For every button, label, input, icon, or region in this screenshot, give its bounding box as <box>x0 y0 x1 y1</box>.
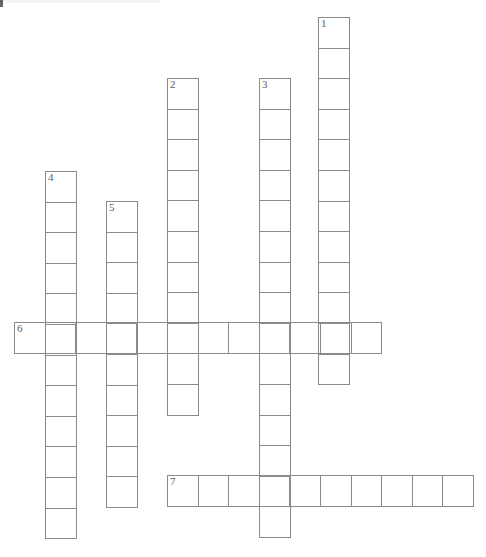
cell[interactable] <box>318 109 350 141</box>
cell-letter[interactable] <box>229 323 259 353</box>
cell-letter[interactable] <box>290 323 320 353</box>
cell-letter[interactable] <box>352 476 382 506</box>
entry-6-across[interactable]: 6 <box>14 322 381 353</box>
entry-5-down[interactable]: 5 <box>106 201 137 507</box>
cell[interactable] <box>289 322 321 354</box>
cell[interactable] <box>45 293 77 325</box>
cell[interactable] <box>167 262 199 294</box>
cell[interactable]: 5 <box>106 201 138 233</box>
cell-letter[interactable] <box>107 263 137 293</box>
entry-3-down[interactable]: 3 <box>259 78 290 537</box>
cell-letter[interactable] <box>319 202 349 232</box>
cell[interactable] <box>45 416 77 448</box>
cell[interactable] <box>167 170 199 202</box>
cell[interactable] <box>381 475 413 507</box>
cell[interactable] <box>259 262 291 294</box>
cell[interactable] <box>259 200 291 232</box>
cell-letter[interactable] <box>168 110 198 140</box>
cell[interactable] <box>318 201 350 233</box>
cell[interactable] <box>318 262 350 294</box>
cell[interactable] <box>259 506 291 538</box>
cell[interactable] <box>45 446 77 478</box>
cell[interactable] <box>259 231 291 263</box>
cell-letter[interactable] <box>107 355 137 385</box>
cell-letter[interactable] <box>107 416 137 446</box>
cell-letter[interactable] <box>168 232 198 262</box>
cell-letter[interactable] <box>260 354 290 384</box>
cell-letter[interactable] <box>260 507 290 537</box>
cell-letter[interactable] <box>46 417 76 447</box>
cell[interactable] <box>318 48 350 80</box>
cell[interactable] <box>318 231 350 263</box>
cell-letter[interactable] <box>260 385 290 415</box>
cell[interactable]: 4 <box>45 171 77 203</box>
entry-7-across[interactable]: 7 <box>167 475 473 506</box>
cell-letter[interactable] <box>260 110 290 140</box>
cell[interactable] <box>106 293 138 325</box>
cell-letter[interactable] <box>229 476 259 506</box>
cell-letter[interactable] <box>319 79 349 109</box>
cell-letter[interactable] <box>168 201 198 231</box>
cell-letter[interactable] <box>319 171 349 201</box>
cell[interactable] <box>106 262 138 294</box>
cell-letter[interactable] <box>260 323 290 353</box>
cell-letter[interactable] <box>319 355 349 385</box>
cell[interactable] <box>106 446 138 478</box>
cell[interactable] <box>412 475 444 507</box>
cell[interactable]: 3 <box>259 78 291 110</box>
cell[interactable] <box>136 322 168 354</box>
cell-letter[interactable] <box>46 264 76 294</box>
cell[interactable] <box>106 232 138 264</box>
cell-letter[interactable] <box>443 476 473 506</box>
cell[interactable] <box>45 508 77 540</box>
cell[interactable] <box>318 170 350 202</box>
cell-letter[interactable] <box>46 294 76 324</box>
cell-letter[interactable] <box>319 263 349 293</box>
cell[interactable] <box>318 78 350 110</box>
cell-letter[interactable] <box>260 476 290 506</box>
cell[interactable] <box>198 475 230 507</box>
cell-letter[interactable] <box>168 171 198 201</box>
cell[interactable] <box>167 200 199 232</box>
cell[interactable] <box>318 354 350 386</box>
cell[interactable] <box>289 475 321 507</box>
cell-letter[interactable] <box>199 476 229 506</box>
cell[interactable] <box>45 385 77 417</box>
cell[interactable] <box>259 415 291 447</box>
cell-letter[interactable] <box>46 233 76 263</box>
cell[interactable] <box>167 139 199 171</box>
cell-letter[interactable] <box>107 447 137 477</box>
cell-letter[interactable] <box>46 323 76 353</box>
cell[interactable] <box>45 355 77 387</box>
cell-letter[interactable] <box>76 323 106 353</box>
cell-letter[interactable] <box>260 140 290 170</box>
cell[interactable]: 6 <box>14 322 46 354</box>
cell-letter[interactable] <box>321 476 351 506</box>
entry-2-down[interactable]: 2 <box>167 78 198 415</box>
crossword-grid[interactable]: 1234567 <box>0 0 486 557</box>
cell-letter[interactable] <box>382 476 412 506</box>
cell-letter[interactable] <box>319 232 349 262</box>
cell[interactable] <box>228 475 260 507</box>
cell-letter[interactable] <box>46 386 76 416</box>
cell-letter[interactable] <box>168 385 198 415</box>
cell-letter[interactable] <box>319 140 349 170</box>
cell[interactable] <box>318 292 350 324</box>
cell[interactable] <box>259 292 291 324</box>
cell-letter[interactable] <box>319 110 349 140</box>
cell[interactable] <box>106 385 138 417</box>
cell-letter[interactable] <box>321 323 351 353</box>
cell-letter[interactable] <box>319 293 349 323</box>
cell-letter[interactable] <box>260 293 290 323</box>
cell[interactable] <box>259 170 291 202</box>
entry-4-down[interactable]: 4 <box>45 171 76 538</box>
cell-letter[interactable] <box>168 354 198 384</box>
cell-letter[interactable] <box>107 233 137 263</box>
cell-letter[interactable] <box>107 294 137 324</box>
cell[interactable] <box>45 263 77 295</box>
cell[interactable] <box>198 322 230 354</box>
cell-letter[interactable] <box>260 416 290 446</box>
cell-letter[interactable] <box>107 477 137 507</box>
cell[interactable] <box>259 445 291 477</box>
cell[interactable] <box>75 322 107 354</box>
